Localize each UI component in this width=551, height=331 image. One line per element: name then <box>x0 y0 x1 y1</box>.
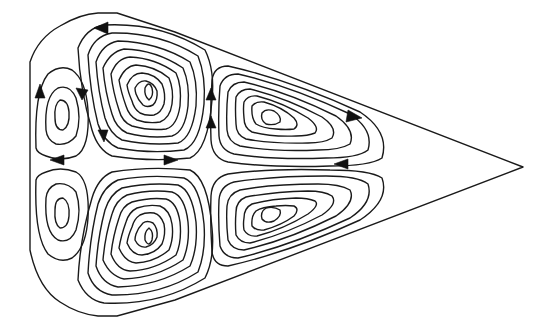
cell-upper-left <box>36 68 89 159</box>
arrow-left-icon <box>94 22 108 34</box>
arrow-right-icon <box>164 155 178 165</box>
arrow-up-icon <box>35 84 45 98</box>
cell-upper-middle <box>78 25 213 160</box>
arrow-left-icon <box>334 159 348 169</box>
cone-boundary <box>30 13 523 316</box>
arrow-left-icon <box>50 155 64 165</box>
cell-lower-right <box>211 170 384 267</box>
cell-lower-middle <box>78 168 213 303</box>
diagram-svg <box>0 0 551 331</box>
streamline-diagram <box>0 0 551 331</box>
arrow-up-icon <box>206 116 216 128</box>
arrow-up-icon <box>206 88 216 100</box>
cell-lower-left <box>36 169 89 260</box>
